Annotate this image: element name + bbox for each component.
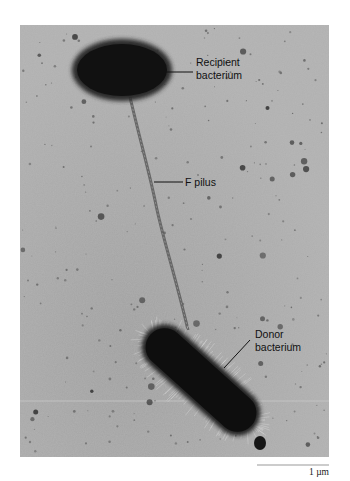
speck: [64, 279, 66, 281]
speck: [256, 81, 257, 82]
speck: [152, 377, 155, 380]
speck: [301, 371, 302, 372]
speck: [21, 248, 26, 253]
speck: [39, 42, 40, 43]
speck: [316, 405, 317, 406]
speck: [81, 313, 83, 315]
speck: [133, 419, 135, 421]
speck: [63, 166, 65, 168]
speck: [171, 107, 173, 109]
speck: [306, 442, 311, 447]
speck: [116, 425, 118, 427]
speck: [127, 231, 128, 232]
speck: [239, 37, 241, 39]
micrograph-figure: Recipient bacterium F pilus Donor bacter…: [0, 0, 350, 481]
speck: [266, 106, 270, 110]
speck: [214, 86, 215, 87]
speck: [281, 239, 282, 240]
speck: [271, 100, 273, 102]
speck: [250, 53, 252, 55]
speck: [40, 303, 42, 305]
speck: [255, 123, 256, 124]
label-donor-line1: Donor: [255, 328, 284, 340]
speck: [277, 90, 278, 91]
scale-bar: 1 µm: [257, 465, 330, 477]
speck: [55, 226, 56, 227]
speck: [215, 329, 216, 330]
speck: [168, 197, 170, 199]
label-f-pilus-text: F pilus: [185, 176, 216, 188]
speck: [48, 416, 49, 417]
speck: [275, 195, 276, 196]
speck: [202, 270, 203, 271]
speck: [299, 142, 302, 145]
speck: [208, 120, 210, 122]
speck: [297, 278, 299, 280]
recipient-bacterium: [72, 39, 172, 101]
speck: [174, 319, 175, 320]
speck: [294, 229, 296, 231]
speck: [259, 164, 261, 166]
speck: [38, 54, 42, 58]
speck: [232, 197, 233, 198]
speck: [29, 163, 32, 166]
speck: [109, 378, 112, 381]
speck: [170, 128, 173, 131]
speck: [300, 297, 302, 299]
speck: [226, 100, 228, 102]
speck: [85, 442, 87, 444]
speck: [135, 223, 136, 224]
speck: [258, 79, 260, 81]
speck: [199, 439, 201, 441]
speck: [219, 206, 222, 209]
speck: [148, 383, 155, 390]
speck: [289, 31, 291, 33]
speck: [290, 140, 295, 145]
speck: [326, 353, 327, 354]
speck: [323, 410, 324, 411]
speck: [292, 318, 295, 321]
speck: [44, 144, 45, 145]
speck: [307, 256, 308, 257]
speck: [217, 254, 222, 259]
speck: [304, 149, 305, 150]
speck: [155, 101, 156, 102]
speck: [260, 178, 262, 180]
speck: [91, 307, 93, 309]
speck: [30, 417, 34, 421]
speck: [265, 163, 267, 165]
speck: [63, 39, 66, 42]
speck: [155, 157, 158, 160]
speck: [250, 145, 252, 147]
speck: [106, 205, 108, 207]
speck: [309, 119, 311, 121]
speck: [131, 304, 133, 306]
speck: [109, 345, 111, 347]
speck: [299, 386, 301, 388]
speck: [175, 442, 177, 444]
speck: [272, 418, 273, 419]
speck: [291, 307, 293, 309]
speck: [65, 382, 66, 383]
speck: [303, 166, 309, 172]
speck: [72, 34, 78, 40]
label-donor-line2: bacterium: [255, 341, 301, 353]
speck: [95, 220, 97, 222]
speck: [24, 296, 25, 297]
speck: [254, 162, 255, 163]
speck: [76, 268, 79, 271]
speck: [240, 48, 246, 54]
label-recipient-line1: Recipient: [196, 56, 240, 68]
speck: [130, 187, 132, 189]
speck: [41, 62, 43, 64]
speck: [202, 264, 203, 265]
speck: [294, 411, 296, 413]
donor-small-blob: [254, 436, 266, 450]
speck: [183, 202, 185, 204]
speck: [119, 329, 121, 331]
speck: [26, 101, 28, 103]
speck: [182, 87, 185, 90]
speck: [202, 281, 204, 283]
speck: [147, 399, 153, 405]
speck: [265, 376, 267, 378]
